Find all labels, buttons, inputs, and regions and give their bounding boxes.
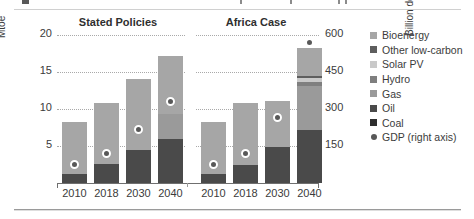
cropped-bullet-icon <box>22 0 29 4</box>
legend-item[interactable]: Oil <box>370 101 474 116</box>
legend-swatch-icon <box>370 105 377 112</box>
legend-item[interactable]: Coal <box>370 116 474 131</box>
cropped-mark <box>240 0 242 4</box>
gdp-marker <box>70 160 79 169</box>
right-axis-tick-label: 150 <box>325 138 355 150</box>
legend-dot-icon <box>371 134 377 140</box>
bar-segment-hydro <box>297 82 322 86</box>
cropped-mark <box>345 0 347 4</box>
chart-figure: Stated Policies Africa Case Mtoe Billion… <box>0 0 474 219</box>
bar-segment-oil <box>297 130 322 183</box>
bar-segment-oil <box>201 174 226 183</box>
bar-segment-bioenergy <box>297 48 322 76</box>
bar-segment-gas <box>297 86 322 130</box>
x-axis-tick-label: 2030 <box>122 187 156 199</box>
bar-segment-bioenergy <box>265 101 290 147</box>
panel-title-africa-case: Africa Case <box>195 16 317 28</box>
axis-end-tick-left <box>57 183 58 188</box>
legend-swatch-icon <box>370 119 377 126</box>
x-axis-tick-label: 2010 <box>58 187 92 199</box>
gdp-marker <box>209 160 218 169</box>
left-axis-tick-label: 15 <box>26 64 52 76</box>
legend-item[interactable]: Solar PV <box>370 57 474 72</box>
x-axis-tick-label: 2018 <box>90 187 124 199</box>
legend-label: Gas <box>382 88 401 100</box>
gdp-marker <box>134 125 143 134</box>
axis-mid-tick <box>187 183 188 187</box>
legend-label: GDP (right axis) <box>382 131 457 143</box>
legend-swatch-icon <box>370 46 377 53</box>
x-axis-tick-label: 2040 <box>293 187 327 199</box>
legend-swatch-icon <box>370 32 377 39</box>
bar-segment-oil <box>94 164 119 183</box>
cropped-mark <box>338 0 340 4</box>
legend-label: Other low-carbon <box>382 44 463 56</box>
right-axis-tick-label: 300 <box>325 101 355 113</box>
gdp-marker <box>305 38 314 47</box>
cropped-top-strip <box>0 0 474 9</box>
plot-area <box>57 35 319 183</box>
x-axis-tick-label: 2040 <box>154 187 188 199</box>
legend-item[interactable]: Gas <box>370 86 474 101</box>
bar-segment-other-low-carbon <box>297 76 322 77</box>
legend-item[interactable]: GDP (right axis) <box>370 130 474 145</box>
legend-swatch-icon <box>370 90 377 97</box>
chart-legend: BioenergyOther low-carbonSolar PVHydroGa… <box>370 28 474 145</box>
x-axis-tick-label: 2030 <box>261 187 295 199</box>
bar-segment-oil <box>62 174 87 183</box>
left-axis-tick-label: 10 <box>26 101 52 113</box>
cropped-mark <box>290 0 292 4</box>
legend-label: Hydro <box>382 73 410 85</box>
axis-end-tick-right <box>318 183 319 188</box>
bar-segment-oil <box>158 139 183 183</box>
right-axis-tick-label: 600 <box>325 27 355 39</box>
legend-item[interactable]: Bioenergy <box>370 28 474 43</box>
legend-label: Coal <box>382 117 404 129</box>
legend-label: Bioenergy <box>382 29 429 41</box>
panel-title-stated-policies: Stated Policies <box>57 16 179 28</box>
right-axis-tick-label: 450 <box>325 64 355 76</box>
legend-swatch-icon <box>370 61 377 68</box>
left-axis-title: Mtoe <box>0 16 7 38</box>
panel-separator <box>187 35 188 183</box>
bar-segment-gas <box>158 114 183 139</box>
bar-segment-oil <box>233 165 258 184</box>
legend-label: Solar PV <box>382 58 423 70</box>
bar-segment-oil <box>265 147 290 183</box>
bar-segment-solar-pv <box>297 78 322 82</box>
left-axis-tick-label: 5 <box>26 138 52 150</box>
x-axis-line <box>57 183 319 184</box>
divider-bottom-shadow <box>14 210 461 211</box>
x-axis-tick-label: 2018 <box>229 187 263 199</box>
x-axis-tick-label: 2010 <box>197 187 231 199</box>
gdp-marker <box>241 149 250 158</box>
legend-swatch-icon <box>370 76 377 83</box>
gdp-marker <box>102 149 111 158</box>
bar-segment-oil <box>126 150 151 183</box>
left-axis-tick-label: 20 <box>26 27 52 39</box>
legend-item[interactable]: Other low-carbon <box>370 43 474 58</box>
legend-item[interactable]: Hydro <box>370 72 474 87</box>
divider-top <box>14 9 461 10</box>
bar-segment-bioenergy <box>126 79 151 150</box>
legend-label: Oil <box>382 102 395 114</box>
